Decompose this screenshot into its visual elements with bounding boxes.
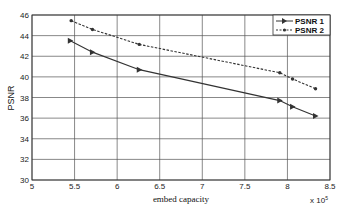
x-multiplier: x 105 xyxy=(310,195,328,205)
legend-psnr2: PSNR 2 xyxy=(295,26,324,35)
y-tick-label: 42 xyxy=(20,52,29,61)
x-axis-label: embed capacity xyxy=(153,194,210,204)
y-tick-label: 40 xyxy=(20,73,29,82)
triangle-marker-icon xyxy=(90,49,96,55)
circle-marker-icon xyxy=(138,43,141,46)
circle-marker-icon xyxy=(69,19,72,22)
legend-psnr1: PSNR 1 xyxy=(295,17,324,26)
y-axis-label: PSNR xyxy=(6,85,16,111)
circle-marker-icon xyxy=(291,77,294,80)
y-tick-label: 38 xyxy=(20,94,29,103)
y-tick-label: 34 xyxy=(20,135,29,144)
x-tick-label: 5 xyxy=(30,182,35,191)
triangle-marker-icon xyxy=(137,67,143,73)
triangle-marker-icon xyxy=(290,104,296,110)
x-multiplier-exp: 5 xyxy=(325,195,328,201)
circle-marker-icon xyxy=(91,28,94,31)
series-line-1 xyxy=(70,41,315,116)
legend: PSNR 1 PSNR 2 xyxy=(273,15,330,35)
triangle-marker-icon xyxy=(277,98,283,104)
circle-marker-icon xyxy=(283,28,286,31)
x-tick-label: 8.5 xyxy=(324,182,336,191)
y-tick-label: 30 xyxy=(20,176,29,185)
y-tick-label: 46 xyxy=(20,11,29,20)
x-tick-label: 7.5 xyxy=(239,182,251,191)
y-tick-label: 32 xyxy=(20,155,29,164)
circle-marker-icon xyxy=(278,71,281,74)
circle-marker-icon xyxy=(314,87,317,90)
x-tick-label: 8 xyxy=(285,182,290,191)
x-tick-label: 7 xyxy=(200,182,205,191)
y-tick-label: 44 xyxy=(20,32,29,41)
x-tick-label: 5.5 xyxy=(69,182,81,191)
axes: 55.566.577.588.5303234363840424446 xyxy=(20,11,336,191)
y-tick-label: 36 xyxy=(20,114,29,123)
x-tick-label: 6 xyxy=(115,182,120,191)
triangle-marker-icon xyxy=(68,38,74,44)
grid xyxy=(32,15,330,180)
psnr-line-chart: 55.566.577.588.5303234363840424446 embed… xyxy=(0,0,347,213)
x-tick-label: 6.5 xyxy=(154,182,166,191)
